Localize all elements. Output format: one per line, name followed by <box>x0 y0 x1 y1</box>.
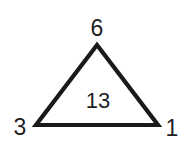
vertex-label-bottom-left: 3 <box>14 116 27 139</box>
vertex-label-bottom-right: 1 <box>166 117 179 140</box>
center-value: 13 <box>86 90 110 112</box>
vertex-label-top: 6 <box>91 17 104 40</box>
triangle-diagram: 6 3 1 13 <box>0 0 181 148</box>
